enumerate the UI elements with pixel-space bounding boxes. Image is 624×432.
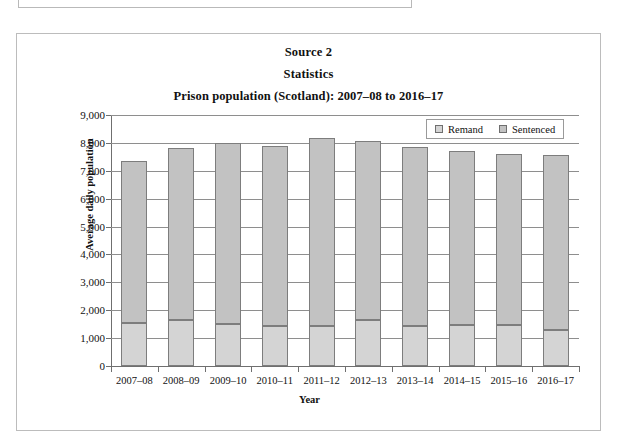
bar-segment-remand[interactable] [496,325,522,366]
chart: Average daily population 01,0002,0003,00… [17,34,602,432]
x-axis-tick-mark [158,366,159,372]
bar-column[interactable] [355,115,381,366]
bar-column[interactable] [496,115,522,366]
bar-column[interactable] [402,115,428,366]
legend-label: Sentenced [512,124,555,135]
bar-segment-sentenced[interactable] [543,155,569,329]
y-axis-tick-label: 6,000 [59,193,105,205]
bar-column[interactable] [121,115,147,366]
bar-segment-sentenced[interactable] [309,138,335,327]
bar-segment-remand[interactable] [449,325,475,366]
source-panel: Source 2 Statistics Prison population (S… [16,33,601,431]
legend-entry[interactable]: Sentenced [499,124,555,135]
x-axis-tick-mark [251,366,252,372]
y-axis-tick-label: 3,000 [59,276,105,288]
y-axis-tick-labels: 01,0002,0003,0004,0005,0006,0007,0008,00… [57,34,105,432]
bar-column[interactable] [262,115,288,366]
bar-segment-sentenced[interactable] [355,141,381,320]
x-axis-tick-mark [205,366,206,372]
x-axis-tick-mark [298,366,299,372]
x-axis-title: Year [17,394,602,405]
bar-segment-remand[interactable] [262,326,288,366]
x-axis-tick-mark [485,366,486,372]
plot-area [111,115,579,366]
legend-swatch-icon [499,125,507,133]
bar-segment-remand[interactable] [168,320,194,366]
bar-column[interactable] [309,115,335,366]
bar-segment-remand[interactable] [355,320,381,366]
y-axis-tick-label: 9,000 [59,109,105,121]
bar-segment-remand[interactable] [121,323,147,366]
bar-column[interactable] [449,115,475,366]
bar-segment-remand[interactable] [543,330,569,366]
x-axis-tick-mark [532,366,533,372]
x-axis-tick-label: 2016–17 [527,375,585,386]
x-axis-tick-mark [345,366,346,372]
bar-segment-sentenced[interactable] [496,154,522,326]
y-axis-tick-label: 0 [59,360,105,372]
legend-swatch-icon [435,125,443,133]
y-axis-tick-label: 1,000 [59,332,105,344]
bar-column[interactable] [168,115,194,366]
x-axis-tick-mark [579,366,580,372]
x-axis-tick-mark [111,366,112,372]
y-axis-tick-label: 7,000 [59,165,105,177]
bar-segment-sentenced[interactable] [121,161,147,323]
bar-segment-sentenced[interactable] [168,148,194,320]
bar-segment-sentenced[interactable] [449,151,475,325]
legend-label: Remand [448,124,483,135]
y-axis-tick-label: 4,000 [59,248,105,260]
y-axis-tick-label: 2,000 [59,304,105,316]
previous-content-box-fragment [18,0,412,8]
x-axis-tick-mark [392,366,393,372]
chart-legend: RemandSentenced [426,119,564,139]
bar-column[interactable] [543,115,569,366]
legend-entry[interactable]: Remand [435,124,483,135]
bar-column[interactable] [215,115,241,366]
bar-segment-sentenced[interactable] [402,147,428,326]
bar-segment-sentenced[interactable] [262,146,288,326]
y-axis-tick-label: 8,000 [59,137,105,149]
bar-segment-remand[interactable] [402,326,428,366]
bar-segment-sentenced[interactable] [215,143,241,324]
y-axis-tick-label: 5,000 [59,221,105,233]
bar-segment-remand[interactable] [215,324,241,366]
x-axis-tick-mark [439,366,440,372]
bar-segment-remand[interactable] [309,326,335,366]
